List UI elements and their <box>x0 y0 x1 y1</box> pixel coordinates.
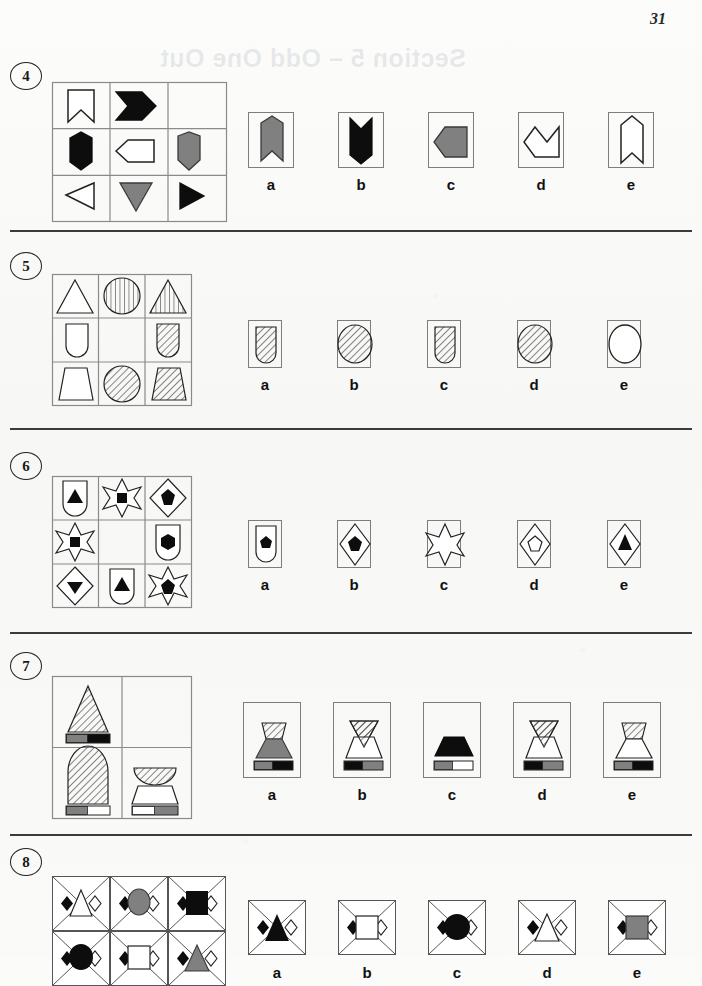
option-box <box>607 320 641 368</box>
option-label: e <box>608 964 666 981</box>
question-7-option-e[interactable]: e <box>603 702 661 803</box>
option-box <box>248 112 294 168</box>
option-label: e <box>608 176 654 193</box>
question-8-option-d[interactable]: d <box>518 900 576 981</box>
option-box <box>248 900 306 956</box>
option-label: b <box>337 376 371 393</box>
option-box <box>513 702 571 778</box>
option-box <box>517 320 551 368</box>
option-box <box>248 320 282 368</box>
option-box <box>427 520 461 568</box>
question-8-option-a[interactable]: a <box>248 900 306 981</box>
question-number-6: 6 <box>10 452 42 480</box>
question-number-8: 8 <box>10 848 42 876</box>
option-label: a <box>248 376 282 393</box>
divider-after-q5 <box>10 428 692 430</box>
bleed-through-header: Section 5 – Odd One Out <box>160 44 466 73</box>
option-label: e <box>603 786 661 803</box>
option-label: c <box>428 176 474 193</box>
question-5-option-c[interactable]: c <box>427 320 461 393</box>
option-box <box>428 112 474 168</box>
divider-after-q4 <box>10 230 692 232</box>
option-box <box>337 520 371 568</box>
option-box <box>243 702 301 778</box>
question-6-option-c[interactable]: c <box>427 520 461 593</box>
option-box <box>427 320 461 368</box>
question-4-grid <box>52 82 227 222</box>
question-number-4: 4 <box>10 62 42 90</box>
option-label: d <box>513 786 571 803</box>
question-4-option-c[interactable]: c <box>428 112 474 193</box>
option-label: b <box>337 576 371 593</box>
divider-after-q6 <box>10 632 692 634</box>
option-label: d <box>517 376 551 393</box>
question-7-option-d[interactable]: d <box>513 702 571 803</box>
option-box <box>337 320 371 368</box>
option-label: c <box>423 786 481 803</box>
question-4-option-e[interactable]: e <box>608 112 654 193</box>
option-label: b <box>333 786 391 803</box>
option-label: e <box>607 376 641 393</box>
option-label: a <box>243 786 301 803</box>
option-label: a <box>248 576 282 593</box>
question-4-option-d[interactable]: d <box>518 112 564 193</box>
question-5-option-a[interactable]: a <box>248 320 282 393</box>
page-number: 31 <box>650 10 666 28</box>
option-box <box>248 520 282 568</box>
question-6-option-d[interactable]: d <box>517 520 551 593</box>
question-7-option-c[interactable]: c <box>423 702 481 803</box>
question-4-option-a[interactable]: a <box>248 112 294 193</box>
option-label: b <box>338 964 396 981</box>
option-label: c <box>428 964 486 981</box>
question-number-7: 7 <box>10 652 42 680</box>
question-8-option-c[interactable]: c <box>428 900 486 981</box>
option-label: d <box>517 576 551 593</box>
option-label: a <box>248 964 306 981</box>
option-box <box>428 900 486 956</box>
option-label: b <box>338 176 384 193</box>
question-7-option-b[interactable]: b <box>333 702 391 803</box>
option-box <box>338 112 384 168</box>
option-box <box>517 520 551 568</box>
question-7-option-a[interactable]: a <box>243 702 301 803</box>
question-5-option-b[interactable]: b <box>337 320 371 393</box>
option-label: d <box>518 964 576 981</box>
option-label: d <box>518 176 564 193</box>
question-5-grid <box>52 274 192 406</box>
question-6-option-b[interactable]: b <box>337 520 371 593</box>
option-label: a <box>248 176 294 193</box>
question-6-grid <box>52 476 192 608</box>
option-box <box>603 702 661 778</box>
option-label: c <box>427 576 461 593</box>
option-box <box>333 702 391 778</box>
question-4-option-b[interactable]: b <box>338 112 384 193</box>
option-label: c <box>427 376 461 393</box>
question-8-grid <box>52 876 227 986</box>
question-number-5: 5 <box>10 252 42 280</box>
question-6-option-a[interactable]: a <box>248 520 282 593</box>
question-5-option-d[interactable]: d <box>517 320 551 393</box>
divider-after-q7 <box>10 834 692 836</box>
question-6-option-e[interactable]: e <box>607 520 641 593</box>
option-label: e <box>607 576 641 593</box>
question-5-option-e[interactable]: e <box>607 320 641 393</box>
question-8-option-e[interactable]: e <box>608 900 666 981</box>
question-8-option-b[interactable]: b <box>338 900 396 981</box>
option-box <box>338 900 396 956</box>
option-box <box>423 702 481 778</box>
option-box <box>518 900 576 956</box>
question-7-grid <box>52 676 192 819</box>
option-box <box>607 520 641 568</box>
option-box <box>608 112 654 168</box>
option-box <box>608 900 666 956</box>
option-box <box>518 112 564 168</box>
